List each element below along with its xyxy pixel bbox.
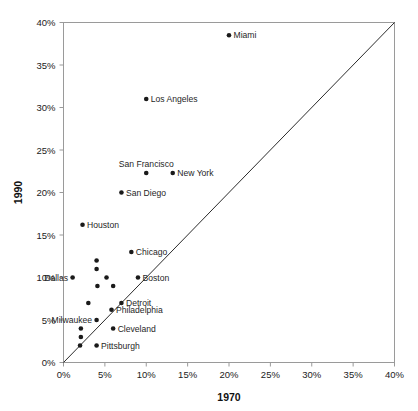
data-point-label: Philadelphia xyxy=(116,305,163,315)
y-tick-label: 20% xyxy=(36,187,56,198)
data-point xyxy=(94,318,99,323)
data-point xyxy=(95,284,100,289)
data-point-label: Miami xyxy=(234,30,257,40)
data-point-label: New York xyxy=(177,168,214,178)
x-tick-label: 10% xyxy=(137,369,157,380)
y-tick-label: 0% xyxy=(42,357,56,368)
x-tick-label: 30% xyxy=(302,369,322,380)
data-point-label: Chicago xyxy=(136,247,168,257)
data-point xyxy=(80,223,85,228)
x-tick-label: 35% xyxy=(344,369,364,380)
x-tick-label: 15% xyxy=(178,369,198,380)
chart-canvas: 0%5%10%15%20%25%30%35%40%0%5%10%15%20%25… xyxy=(0,0,418,411)
data-point-label: Dallas xyxy=(44,273,68,283)
data-point xyxy=(136,275,141,280)
data-point xyxy=(227,33,232,38)
scatter-chart: 0%5%10%15%20%25%30%35%40%0%5%10%15%20%25… xyxy=(0,0,418,411)
x-tick-label: 40% xyxy=(385,369,405,380)
data-point-label: San Francisco xyxy=(119,159,174,169)
y-tick-label: 35% xyxy=(36,60,56,71)
y-tick-label: 25% xyxy=(36,145,56,156)
data-point xyxy=(144,171,149,176)
y-axis-title: 1990 xyxy=(12,181,24,205)
data-point xyxy=(94,343,99,348)
data-point xyxy=(170,171,175,176)
data-point-label: Pittsburgh xyxy=(101,341,140,351)
data-point xyxy=(86,301,91,306)
y-tick-label: 15% xyxy=(36,230,56,241)
x-tick-label: 25% xyxy=(261,369,281,380)
data-point xyxy=(111,284,116,289)
data-point xyxy=(94,258,99,263)
data-point-label: Los Angeles xyxy=(151,94,198,104)
data-point xyxy=(111,326,116,331)
data-point xyxy=(79,326,84,331)
data-point xyxy=(78,343,83,348)
data-point xyxy=(104,275,109,280)
data-point xyxy=(119,190,124,195)
data-point-label: Boston xyxy=(142,273,169,283)
data-point-label: Cleveland xyxy=(118,324,156,334)
x-axis-title: 1970 xyxy=(217,391,241,403)
data-point xyxy=(79,335,84,340)
y-tick-label: 30% xyxy=(36,102,56,113)
data-point xyxy=(109,308,114,313)
data-point xyxy=(70,275,75,280)
data-point-label: San Diego xyxy=(126,188,166,198)
data-point-label: Milwaukee xyxy=(51,315,92,325)
x-tick-label: 0% xyxy=(57,369,71,380)
reference-line xyxy=(64,23,395,363)
data-point xyxy=(94,267,99,272)
y-tick-label: 40% xyxy=(36,17,56,28)
data-point xyxy=(144,97,149,102)
x-tick-label: 20% xyxy=(219,369,239,380)
data-point xyxy=(129,250,134,255)
data-point-label: Houston xyxy=(87,220,119,230)
x-tick-label: 5% xyxy=(98,369,112,380)
